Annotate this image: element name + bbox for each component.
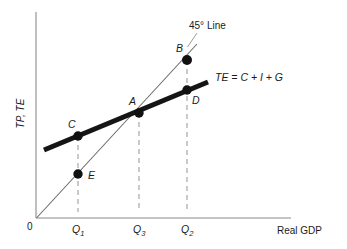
plot-area [0, 0, 347, 249]
x-axis-label: Real GDP [277, 226, 322, 236]
forty-five-degree-line-label: 45° Line [189, 21, 226, 31]
point-a-marker [134, 108, 143, 117]
keynesian-cross-figure: TP, TE Real GDP 0 Q1 Q3 Q2 45° Line TE =… [0, 0, 347, 249]
point-b-label: B [176, 43, 183, 54]
x-tick-label-q3-base: Q [133, 223, 141, 235]
point-c-label: C [68, 119, 76, 130]
x-tick-label-q2-base: Q [181, 223, 189, 235]
point-e-marker [73, 169, 82, 178]
forty-five-degree-line [37, 44, 198, 218]
x-tick-label-q1-sub: 1 [80, 229, 84, 238]
x-tick-label-q3-sub: 3 [141, 229, 145, 238]
total-expenditure-line-label: TE = C + I + G [215, 72, 283, 83]
point-b-marker [182, 55, 192, 65]
x-tick-label-q1: Q1 [72, 224, 84, 238]
x-tick-label-q2: Q2 [181, 224, 193, 238]
point-e-label: E [88, 170, 95, 181]
x-tick-label-q1-base: Q [72, 223, 80, 235]
origin-label: 0 [27, 222, 33, 232]
y-axis-label: TP, TE [15, 88, 26, 140]
point-d-label: D [192, 95, 200, 106]
point-d-marker [182, 85, 191, 94]
x-tick-label-q3: Q3 [133, 224, 145, 238]
point-a-label: A [129, 96, 136, 107]
x-tick-label-q2-sub: 2 [189, 229, 193, 238]
point-c-marker [73, 131, 82, 140]
